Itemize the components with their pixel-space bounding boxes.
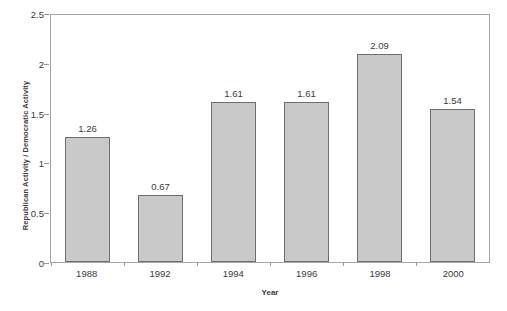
- x-axis-tick-label: 1988: [50, 268, 123, 282]
- plot-area: 1.260.671.611.612.091.54: [50, 14, 490, 263]
- x-axis-tick-label: 1998: [343, 268, 416, 282]
- y-axis-tick-label: 1.5: [14, 108, 44, 119]
- bar-group: 1.54: [416, 15, 489, 262]
- y-axis-tick-label: 0: [14, 258, 44, 269]
- bar-group: 2.09: [343, 15, 416, 262]
- y-axis-tick-mark: [44, 213, 49, 214]
- y-axis-tick-label: 2: [14, 58, 44, 69]
- bar-group: 1.26: [51, 15, 124, 262]
- bar[interactable]: [430, 109, 475, 262]
- bar[interactable]: [211, 102, 256, 262]
- bar[interactable]: [284, 102, 329, 262]
- x-axis-tick-mark: [124, 262, 125, 266]
- y-axis-tick-label: 1: [14, 158, 44, 169]
- y-axis-tick-mark: [44, 64, 49, 65]
- x-axis-tick-label: 1996: [270, 268, 343, 282]
- bar-group: 1.61: [197, 15, 270, 262]
- y-axis-tick-labels: 00.511.522.5: [14, 0, 44, 311]
- y-axis-tick-mark: [44, 14, 49, 15]
- y-axis-tick-label: 0.5: [14, 208, 44, 219]
- bar-group: 0.67: [124, 15, 197, 262]
- bar-value-label: 1.54: [416, 95, 489, 106]
- x-axis-tick-label: 1994: [197, 268, 270, 282]
- x-axis-tick-labels: 198819921994199619982000: [50, 268, 490, 282]
- bars-layer: 1.260.671.611.612.091.54: [51, 15, 489, 262]
- x-axis-tick-mark: [197, 262, 198, 266]
- bar[interactable]: [138, 195, 183, 262]
- bar-value-label: 1.61: [270, 88, 343, 99]
- y-axis-tick-mark: [44, 114, 49, 115]
- y-axis-tick-label: 2.5: [14, 9, 44, 20]
- y-axis-tick-mark: [44, 263, 49, 264]
- x-axis-tick-mark: [416, 262, 417, 266]
- x-axis-tick-mark: [343, 262, 344, 266]
- x-axis-tick-label: 2000: [417, 268, 490, 282]
- x-axis-title: Year: [50, 288, 490, 297]
- x-axis-tick-mark: [270, 262, 271, 266]
- y-axis-tick-mark: [44, 163, 49, 164]
- bar[interactable]: [65, 137, 110, 262]
- x-axis-tick-label: 1992: [123, 268, 196, 282]
- bar-value-label: 2.09: [343, 40, 416, 51]
- bar-value-label: 0.67: [124, 181, 197, 192]
- x-axis-tick-mark: [51, 262, 52, 266]
- bar-group: 1.61: [270, 15, 343, 262]
- bar[interactable]: [357, 54, 402, 262]
- bar-value-label: 1.26: [51, 123, 124, 134]
- bar-chart: Republican Activity / Democratic Activit…: [0, 0, 507, 311]
- bar-value-label: 1.61: [197, 88, 270, 99]
